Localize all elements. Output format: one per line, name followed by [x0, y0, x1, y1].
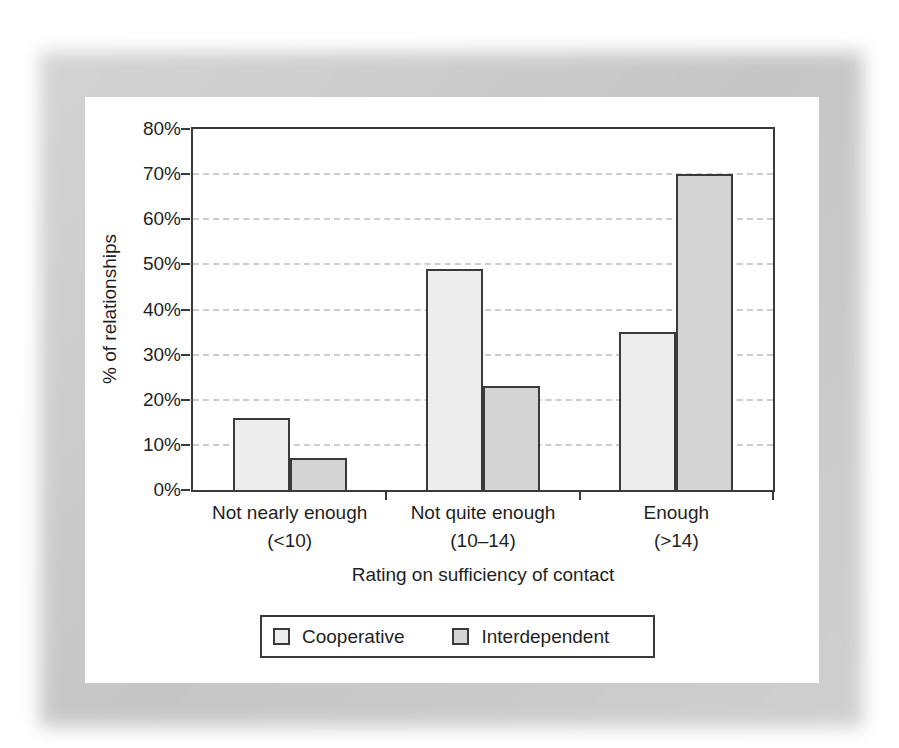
category-label-1: Not quite enough(10–14) [383, 499, 583, 555]
y-tick-40 [181, 309, 190, 311]
y-tick-30 [181, 354, 190, 356]
legend-swatch-interdependent [452, 628, 469, 645]
x-axis-title: Rating on sufficiency of contact [191, 564, 775, 586]
plot-area [191, 127, 775, 492]
y-tick-10 [181, 444, 190, 446]
y-tick-label-20: 20% [119, 389, 181, 411]
category-label-range-1: (10–14) [383, 527, 583, 555]
y-tick-70 [181, 173, 190, 175]
legend: CooperativeInterdependent [260, 615, 655, 658]
legend-label-cooperative: Cooperative [302, 626, 404, 648]
y-tick-label-40: 40% [119, 299, 181, 321]
category-label-0: Not nearly enough(<10) [190, 499, 390, 555]
legend-item-interdependent: Interdependent [452, 626, 609, 648]
y-tick-label-0: 0% [119, 479, 181, 501]
category-label-range-2: (>14) [576, 527, 776, 555]
category-label-text-1: Not quite enough [383, 499, 583, 527]
y-tick-80 [181, 128, 190, 130]
y-tick-label-60: 60% [119, 208, 181, 230]
bar-cooperative-2 [619, 332, 676, 490]
bar-cooperative-0 [233, 418, 290, 490]
y-tick-label-10: 10% [119, 434, 181, 456]
bar-interdependent-2 [676, 174, 733, 490]
category-label-2: Enough(>14) [576, 499, 776, 555]
bar-interdependent-0 [290, 458, 347, 490]
y-tick-50 [181, 263, 190, 265]
legend-swatch-cooperative [273, 628, 290, 645]
bar-cooperative-1 [426, 269, 483, 490]
y-tick-label-50: 50% [119, 253, 181, 275]
chart-panel: % of relationships Rating on sufficiency… [85, 97, 819, 683]
y-tick-20 [181, 399, 190, 401]
category-label-range-0: (<10) [190, 527, 390, 555]
y-tick-60 [181, 218, 190, 220]
legend-item-cooperative: Cooperative [273, 626, 404, 648]
figure: % of relationships Rating on sufficiency… [0, 0, 899, 748]
legend-label-interdependent: Interdependent [481, 626, 609, 648]
y-tick-0 [181, 489, 190, 491]
y-tick-label-30: 30% [119, 344, 181, 366]
category-label-text-0: Not nearly enough [190, 499, 390, 527]
y-tick-label-80: 80% [119, 118, 181, 140]
y-tick-label-70: 70% [119, 163, 181, 185]
bar-interdependent-1 [483, 386, 540, 490]
category-label-text-2: Enough [576, 499, 776, 527]
